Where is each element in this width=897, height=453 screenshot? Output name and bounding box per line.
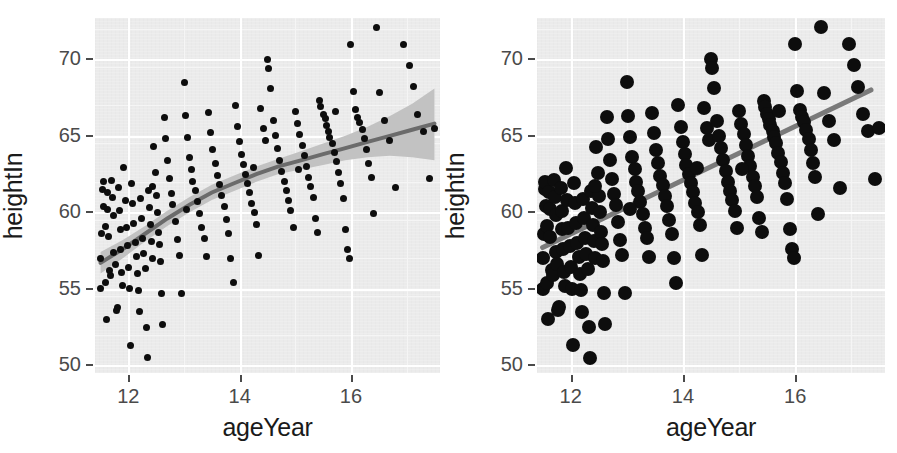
data-point (130, 220, 137, 227)
data-point (690, 161, 704, 175)
data-point (250, 164, 257, 171)
data-point (728, 204, 742, 218)
data-point (350, 88, 357, 95)
data-point (143, 324, 150, 331)
data-point (216, 181, 223, 188)
data-point (118, 269, 125, 276)
data-point (109, 194, 116, 201)
data-point (159, 321, 166, 328)
data-point (150, 143, 157, 150)
data-point (640, 231, 654, 245)
data-point (139, 235, 146, 242)
data-point (128, 180, 135, 187)
data-point (267, 85, 274, 92)
data-point (214, 172, 221, 179)
data-point (804, 143, 818, 157)
gridline-minor-horizontal (537, 105, 885, 106)
data-point (772, 104, 786, 118)
data-point (603, 153, 617, 167)
data-point (257, 105, 264, 112)
gridline-minor-vertical (739, 18, 740, 373)
data-point (595, 237, 609, 251)
data-point (296, 131, 303, 138)
data-point (410, 83, 417, 90)
data-point (292, 108, 299, 115)
data-point (290, 224, 297, 231)
data-point (251, 209, 258, 216)
data-point (621, 109, 635, 123)
data-point (276, 157, 283, 164)
data-point (605, 172, 619, 186)
data-point (108, 177, 115, 184)
data-point (136, 308, 143, 315)
data-point (102, 223, 109, 230)
x-tick-label: 12 (103, 385, 153, 408)
data-point (218, 192, 225, 199)
data-point (332, 108, 339, 115)
gridline-major-vertical (351, 18, 353, 373)
data-point (223, 216, 230, 223)
gridline-major-horizontal (95, 365, 440, 367)
x-tick-mark (351, 375, 353, 382)
data-point (156, 241, 163, 248)
data-point (593, 205, 607, 219)
data-point (194, 198, 201, 205)
data-point (152, 169, 159, 176)
data-point (153, 192, 160, 199)
data-point (147, 221, 154, 228)
data-point (755, 225, 769, 239)
data-point (856, 107, 870, 121)
data-point (370, 210, 377, 217)
y-tick-mark (528, 288, 535, 290)
gridline-minor-horizontal (537, 335, 885, 336)
data-point (310, 194, 317, 201)
data-point (205, 109, 212, 116)
gridline-minor-horizontal (95, 335, 440, 336)
y-tick-mark (86, 58, 93, 60)
x-tick-mark (128, 375, 130, 382)
data-point (265, 65, 272, 72)
data-point (149, 183, 156, 190)
data-point (174, 236, 181, 243)
data-point (623, 130, 637, 144)
data-point (157, 258, 164, 265)
data-point (636, 207, 650, 221)
data-point (710, 114, 724, 128)
data-point (647, 126, 661, 140)
data-point (144, 354, 151, 361)
gridline-major-horizontal (537, 365, 885, 367)
data-point (189, 178, 196, 185)
data-point (329, 140, 336, 147)
data-point (123, 224, 130, 231)
x-tick-mark (683, 375, 685, 382)
data-point (303, 163, 310, 170)
data-point (344, 246, 351, 253)
data-point (244, 180, 251, 187)
data-point (149, 255, 156, 262)
data-point (707, 81, 721, 95)
data-point (660, 199, 674, 213)
data-point (110, 212, 117, 219)
y-tick-label: 55 (477, 277, 523, 300)
data-point (337, 180, 344, 187)
data-point (827, 133, 841, 147)
data-point (611, 215, 625, 229)
data-point (161, 114, 168, 121)
y-axis-title-left: heightIn (0, 116, 28, 276)
data-point (115, 184, 122, 191)
data-point (307, 183, 314, 190)
y-tick-label: 70 (477, 47, 523, 70)
data-point (295, 166, 302, 173)
data-point (363, 146, 370, 153)
data-point (695, 248, 709, 262)
data-point (278, 168, 285, 175)
y-tick-mark (528, 364, 535, 366)
data-point (414, 111, 421, 118)
data-point (312, 215, 319, 222)
gridline-minor-horizontal (537, 29, 885, 30)
y-tick-label: 65 (35, 124, 81, 147)
data-point (778, 176, 792, 190)
data-point (137, 195, 144, 202)
data-point (623, 202, 637, 216)
scatter-panel-right: heightIn ageYear 5055606570121416 (447, 0, 897, 453)
